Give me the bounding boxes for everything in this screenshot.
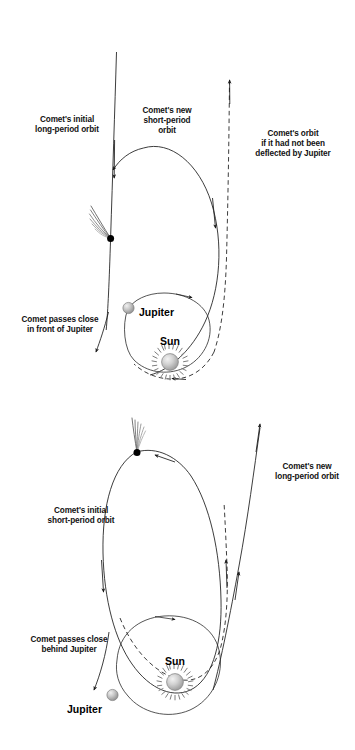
bottom-new-orbit-label: Comet's new long-period orbit [275, 462, 339, 481]
comet-jupiter-deflection-diagram: Sun Jupiter Comet's initial long-period … [0, 0, 355, 750]
top-encounter-label: Comet passes close in front of Jupiter [22, 315, 99, 334]
comet-nucleus-icon [107, 235, 114, 242]
label-line: long-period orbit [275, 472, 339, 481]
label-line: short-period [143, 116, 190, 125]
label-line: behind Jupiter [41, 645, 97, 654]
top-sun-label: Sun [160, 335, 180, 347]
planet-icon [123, 302, 134, 313]
label-line: short-period orbit [48, 516, 115, 525]
top-jupiter-label: Jupiter [139, 306, 174, 318]
label-line: Comet's initial [54, 506, 108, 515]
bottom-encounter-label: Comet passes close behind Jupiter [31, 635, 108, 654]
bottom-jupiter-label: Jupiter [67, 703, 102, 715]
label-line: deflected by Jupiter [255, 149, 331, 158]
label-line: Comet's new [142, 106, 192, 115]
label-line: Comet passes close [22, 315, 99, 324]
label-line: Comet's orbit [267, 129, 319, 138]
label-line: Comet passes close [31, 635, 108, 644]
planet-icon [107, 689, 118, 700]
label-line: in front of Jupiter [27, 325, 94, 334]
label-line: if it had not been [261, 139, 325, 148]
label-line: Comet's new [282, 462, 332, 471]
comet-nucleus-icon [134, 449, 141, 456]
bottom-sun-label: Sun [165, 655, 185, 667]
label-line: long-period orbit [35, 125, 99, 134]
bottom-initial-orbit-label: Comet's initial short-period orbit [48, 506, 115, 525]
top-initial-orbit-label: Comet's initial long-period orbit [35, 115, 99, 134]
label-line: orbit [158, 126, 176, 135]
label-line: Comet's initial [40, 115, 94, 124]
